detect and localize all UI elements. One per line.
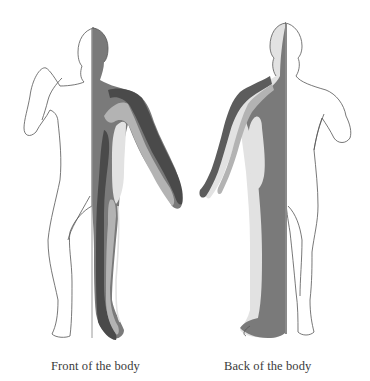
back-body-figure [0, 0, 370, 381]
back-of-body-caption: Back of the body [224, 359, 311, 374]
body-diagram: Front of the body Back of the body [0, 0, 370, 381]
front-of-body-caption: Front of the body [51, 359, 140, 374]
back-body-outline-right [285, 23, 351, 335]
